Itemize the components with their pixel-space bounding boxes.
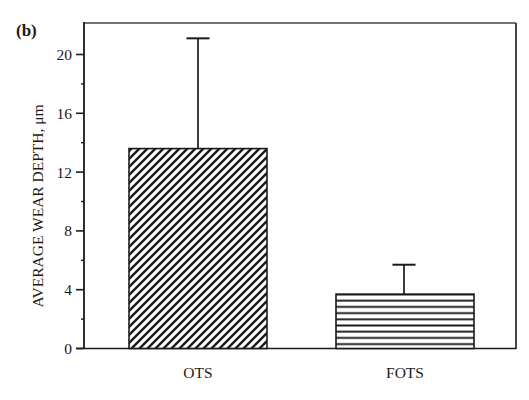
y-tick-label: 12 [57,164,73,181]
y-tick-label: 16 [57,105,73,122]
y-tick-label: 8 [64,222,72,239]
y-tick-label: 0 [64,340,72,357]
y-tick-label: 20 [57,46,73,63]
bar-chart: (b) AVERAGE WEAR DEPTH, μm 048121620 OTS… [0,0,529,400]
x-axis-labels: OTSFOTS [183,364,424,381]
panel-label: (b) [16,21,37,40]
x-tick-label: OTS [183,364,212,381]
bar-fots [336,265,474,349]
chart-canvas: (b) AVERAGE WEAR DEPTH, μm 048121620 OTS… [0,0,529,400]
x-tick-label: FOTS [386,364,424,381]
y-axis-ticks: 048121620 [57,46,85,357]
bars [129,38,474,348]
y-axis-title: AVERAGE WEAR DEPTH, μm [29,104,46,307]
bar-rect [336,294,474,348]
bar-ots [129,38,267,348]
y-tick-label: 4 [64,281,72,298]
bar-rect [129,149,267,349]
